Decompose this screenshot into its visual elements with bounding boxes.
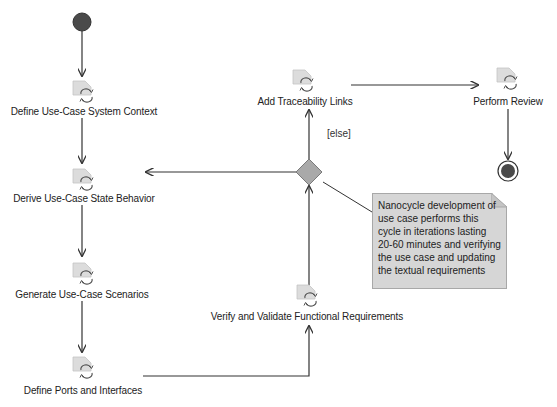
initial-node[interactable] bbox=[73, 13, 91, 31]
call-behavior-action-icon[interactable] bbox=[497, 68, 517, 89]
final-node-inner bbox=[501, 164, 515, 178]
note-text: Nanocycle development of use case perfor… bbox=[378, 199, 504, 277]
action-add-traceability-links[interactable]: Add Traceability Links bbox=[257, 96, 352, 107]
decision-node[interactable] bbox=[296, 159, 322, 185]
note-line: the use case and updating bbox=[378, 251, 504, 264]
call-behavior-action-icon[interactable] bbox=[297, 285, 317, 306]
action-generate-use-case-scenarios[interactable]: Generate Use-Case Scenarios bbox=[15, 289, 148, 300]
guard-else-label: [else] bbox=[327, 128, 351, 139]
action-define-ports-and-interfaces[interactable]: Define Ports and Interfaces bbox=[24, 385, 142, 396]
call-behavior-action-icon[interactable] bbox=[293, 70, 313, 91]
action-perform-review[interactable]: Perform Review bbox=[473, 96, 543, 107]
note-line: cycle in iterations lasting bbox=[378, 225, 504, 238]
note-line: 20-60 minutes and verifying bbox=[378, 238, 504, 251]
call-behavior-action-icon[interactable] bbox=[73, 263, 93, 284]
note-line: Nanocycle development of bbox=[378, 199, 504, 212]
call-behavior-action-icon[interactable] bbox=[73, 357, 93, 378]
call-behavior-action-icon[interactable] bbox=[73, 81, 93, 102]
note-line: use case performs this bbox=[378, 212, 504, 225]
action-derive-use-case-state-behavior[interactable]: Derive Use-Case State Behavior bbox=[13, 193, 155, 204]
call-behavior-action-icon[interactable] bbox=[73, 169, 93, 190]
action-verify-and-validate-functional-requirements[interactable]: Verify and Validate Functional Requireme… bbox=[211, 311, 403, 322]
action-define-use-case-system-context[interactable]: Define Use-Case System Context bbox=[11, 106, 158, 117]
note-line: the textual requirements bbox=[378, 264, 504, 277]
flow-ports-to-verify[interactable] bbox=[143, 326, 309, 376]
note-anchor-line bbox=[323, 182, 372, 212]
